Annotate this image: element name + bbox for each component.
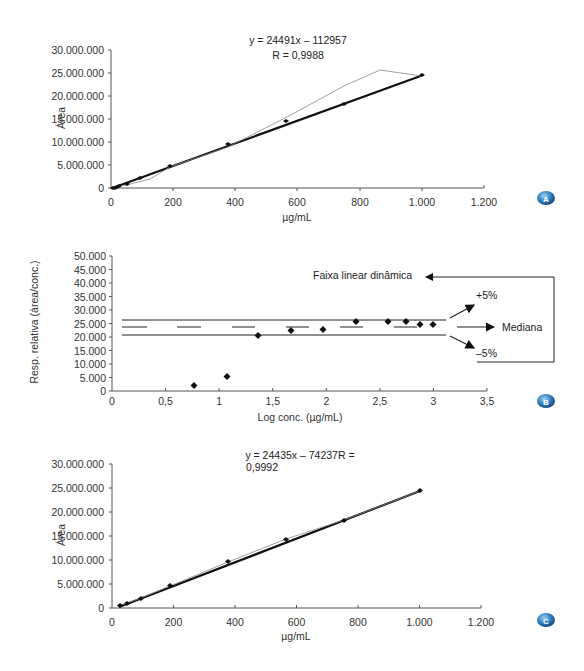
faixa-linear-label: Faixa linear dinâmica [313,269,412,281]
svg-text:1.000: 1.000 [406,616,432,628]
svg-text:200: 200 [165,616,183,628]
svg-text:20.000.000: 20.000.000 [51,90,104,102]
svg-text:10.000: 10.000 [74,358,106,370]
figure-canvas: y = 24491x – 112957 R = 0,9988 Área 30.0… [0,0,584,671]
svg-text:800: 800 [351,196,369,208]
svg-text:30.000.000: 30.000.000 [51,458,104,470]
equation-c: y = 24435x – 74237R = [245,449,354,461]
svg-text:25.000.000: 25.000.000 [51,482,104,494]
svg-text:0: 0 [108,196,114,208]
svg-text:50.000: 50.000 [74,250,106,262]
svg-text:5.000.000: 5.000.000 [57,159,104,171]
svg-text:45.000: 45.000 [74,264,106,276]
trendline-a [111,76,422,189]
svg-text:C: C [543,617,549,626]
x-axis-label-a: µg/mL [282,211,312,223]
svg-text:1.200: 1.200 [468,616,494,628]
r-value-a: R = 0,9988 [272,49,324,61]
svg-text:20.000: 20.000 [74,331,106,343]
svg-text:3,5: 3,5 [480,395,495,407]
svg-text:10.000.000: 10.000.000 [51,136,104,148]
x-axis-label-b: Log conc. (µg/mL) [258,411,343,423]
svg-text:3: 3 [430,395,436,407]
svg-text:B: B [543,398,549,407]
svg-text:2,5: 2,5 [373,395,388,407]
svg-text:0,5: 0,5 [158,395,173,407]
mediana-label: Mediana [502,321,542,333]
x-axis-label-c: µg/mL [281,630,311,642]
svg-text:400: 400 [226,196,244,208]
svg-text:0: 0 [98,602,104,614]
y-ticks-c: 30.000.000 25.000.000 20.000.000 15.000.… [51,458,104,614]
svg-text:5.000: 5.000 [80,372,106,384]
svg-text:30.000.000: 30.000.000 [51,44,104,56]
minus-5-label: –5% [476,347,497,359]
x-ticks-b: 0 0,5 1 1,5 2 2,5 3 3,5 [109,395,494,407]
svg-text:A: A [543,195,549,204]
data-points-b [191,318,437,389]
x-ticks-c: 0 200 400 600 800 1.000 1.200 [109,616,494,628]
panel-badge-a: A [537,191,555,205]
svg-text:25.000.000: 25.000.000 [51,67,104,79]
svg-text:5.000.000: 5.000.000 [57,578,104,590]
svg-text:1.000: 1.000 [409,196,435,208]
y-ticks-b: 50.000 45.000 40.000 35.000 30.000 25.00… [74,250,106,397]
svg-text:0: 0 [109,616,115,628]
svg-text:15.000: 15.000 [74,345,106,357]
svg-text:0: 0 [100,385,106,397]
svg-text:600: 600 [288,196,306,208]
svg-text:35.000: 35.000 [74,291,106,303]
svg-text:0: 0 [109,395,115,407]
svg-text:1,5: 1,5 [265,395,280,407]
svg-text:30.000: 30.000 [74,304,106,316]
r-value-c: 0,9992 [246,461,278,473]
svg-text:200: 200 [164,196,182,208]
minus-arrow [450,336,474,348]
y-ticks-a: 30.000.000 25.000.000 20.000.000 15.000.… [51,44,104,194]
panel-badge-c: C [537,613,555,627]
svg-text:400: 400 [226,616,244,628]
svg-text:15.000.000: 15.000.000 [51,113,104,125]
plus-arrow [450,305,474,318]
svg-text:15.000.000: 15.000.000 [51,530,104,542]
svg-text:0: 0 [98,182,104,194]
x-ticks-a: 0 200 400 600 800 1.000 1.200 [108,196,497,208]
svg-text:10.000.000: 10.000.000 [51,554,104,566]
plus-5-label: +5% [476,289,497,301]
svg-text:800: 800 [349,616,367,628]
equation-a: y = 24491x – 112957 [249,34,347,46]
chart-c: y = 24435x – 74237R = 0,9992 Área 30.000… [51,449,555,642]
data-line-a [111,70,422,188]
chart-a: y = 24491x – 112957 R = 0,9988 Área 30.0… [51,34,555,223]
svg-text:40.000: 40.000 [74,277,106,289]
svg-text:2: 2 [323,395,329,407]
chart-b: Resp. relativa (área/conc.) 50.000 45.00… [28,250,555,423]
panel-badge-b: B [537,394,555,408]
y-axis-label-b: Resp. relativa (área/conc.) [28,260,40,383]
svg-text:1.200: 1.200 [471,196,497,208]
svg-text:20.000.000: 20.000.000 [51,506,104,518]
svg-text:25.000: 25.000 [74,318,106,330]
svg-text:600: 600 [288,616,306,628]
svg-text:1: 1 [216,395,222,407]
